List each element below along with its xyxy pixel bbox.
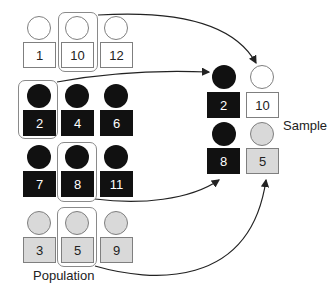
population-item: 9 [100, 237, 133, 263]
person-head-icon [104, 84, 128, 108]
population-item: 12 [100, 42, 133, 68]
population-item: 11 [100, 171, 133, 197]
sample-item: 2 [207, 92, 240, 118]
selection-highlight [58, 12, 98, 72]
population-item: 7 [23, 171, 56, 197]
population-label: Population [33, 268, 94, 283]
arrow-2-to-sample [57, 71, 209, 82]
sample-item: 10 [246, 92, 279, 118]
selection-highlight [18, 80, 58, 139]
population-item: 6 [100, 110, 133, 136]
population-item: 4 [61, 110, 94, 136]
sample-item: 5 [246, 148, 279, 174]
person-head-icon [104, 145, 128, 169]
person-head-icon [212, 65, 236, 89]
person-head-icon [27, 145, 51, 169]
selection-highlight [57, 207, 97, 267]
population-item: 3 [23, 237, 56, 263]
person-head-icon [104, 16, 128, 40]
sample-item: 8 [207, 148, 240, 174]
person-head-icon [27, 211, 51, 235]
person-head-icon [104, 211, 128, 235]
sample-label: Sample [283, 118, 327, 133]
person-head-icon [65, 84, 89, 108]
population-item: 1 [23, 42, 56, 68]
person-head-icon [250, 65, 274, 89]
person-head-icon [212, 122, 236, 146]
person-head-icon [250, 122, 274, 146]
person-head-icon [27, 16, 51, 40]
selection-highlight [57, 142, 97, 202]
